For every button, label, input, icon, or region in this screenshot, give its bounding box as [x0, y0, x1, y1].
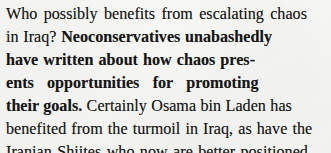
- text-run-bold: Neoconservatives unabashedly: [61, 28, 272, 45]
- text-run-regular: benefited from the turmoil in Iraq, as h…: [6, 120, 312, 137]
- text-line-3: have written about how chaos pres-: [6, 48, 319, 71]
- text-run-regular: in Iraq?: [6, 28, 61, 45]
- text-line-5: their goals. Certainly Osama bin Laden h…: [6, 94, 319, 117]
- text-line-2: in Iraq? Neoconservatives unabashedly: [6, 25, 319, 48]
- text-run-regular: Who possibly benefits from escalating ch…: [6, 5, 307, 22]
- text-line-6: benefited from the turmoil in Iraq, as h…: [6, 117, 319, 140]
- text-line-7: Iranian Shiites who now are better posit…: [6, 140, 319, 153]
- paragraph-text-block: Who possibly benefits from escalating ch…: [6, 2, 319, 153]
- text-run-bold: their goals.: [6, 97, 82, 114]
- text-line-1: Who possibly benefits from escalating ch…: [6, 2, 319, 25]
- text-run-bold: have written about how chaos pres-: [6, 51, 255, 68]
- text-run-regular: Certainly Osama bin Laden has: [82, 97, 292, 114]
- text-line-4: ents opportunities for promoting: [6, 71, 319, 94]
- text-run-regular: Iranian Shiites who now are better posit…: [6, 143, 308, 153]
- scanned-page: Who possibly benefits from escalating ch…: [0, 0, 331, 153]
- text-run-bold: ents opportunities for promoting: [6, 74, 259, 91]
